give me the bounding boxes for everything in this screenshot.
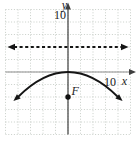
focus-point	[65, 94, 70, 99]
y-tick-label: 10	[54, 8, 66, 22]
x-tick-label: 10	[104, 75, 116, 89]
x-axis-label: x	[121, 74, 128, 88]
focus-label: F	[71, 84, 80, 98]
directrix-left-arrow	[8, 44, 16, 50]
x-axis-arrow	[129, 69, 136, 75]
graph-canvas: y 10 10 x F	[0, 0, 139, 141]
directrix-right-arrow	[121, 44, 129, 50]
parabola-graph-figure: y 10 10 x F	[0, 0, 139, 141]
